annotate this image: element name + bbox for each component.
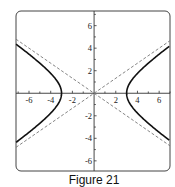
x-tick-label: -2 xyxy=(69,95,76,105)
y-tick-label: -4 xyxy=(85,133,93,143)
axes xyxy=(16,11,170,171)
figure-caption: Figure 21 xyxy=(69,173,120,187)
asymptote-line xyxy=(16,41,170,148)
x-tick-label: -6 xyxy=(25,95,32,105)
x-tick-label: 4 xyxy=(135,95,140,105)
x-tick-label: -4 xyxy=(47,95,55,105)
y-tick-label: -6 xyxy=(85,156,92,166)
x-tick-label: 6 xyxy=(157,95,161,105)
plot-frame xyxy=(16,11,170,171)
y-tick-label: 2 xyxy=(88,66,92,76)
x-tick-label: 2 xyxy=(114,95,118,105)
hyperbola-figure: -6-4-2246642-2-4-6 Figure 21 xyxy=(0,0,175,187)
y-tick-label: 4 xyxy=(88,43,93,53)
asymptote-line xyxy=(16,39,170,146)
y-tick-label: 6 xyxy=(88,21,92,31)
y-tick-label: -2 xyxy=(85,111,92,121)
